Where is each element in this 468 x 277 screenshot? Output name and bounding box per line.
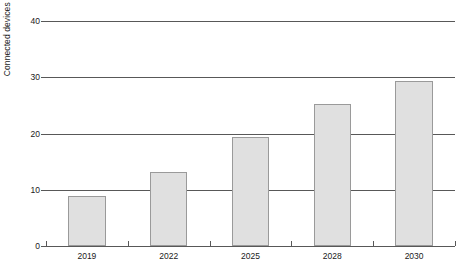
bar bbox=[150, 172, 187, 246]
y-axis-tick-mark bbox=[41, 21, 46, 22]
gridline bbox=[46, 21, 455, 22]
gridline bbox=[46, 77, 455, 78]
bar bbox=[232, 137, 269, 246]
y-axis-tick-mark bbox=[41, 77, 46, 78]
x-axis-line bbox=[46, 246, 455, 247]
x-axis-tick-label: 2022 bbox=[128, 250, 210, 262]
x-axis-tick-mark bbox=[46, 241, 47, 246]
bar bbox=[314, 104, 351, 246]
x-axis-tick-mark bbox=[291, 241, 292, 246]
x-axis-tick-labels: 20192022202520282030 bbox=[46, 250, 455, 264]
bar bbox=[68, 196, 105, 246]
y-axis-tick-mark bbox=[41, 246, 46, 247]
x-axis-tick-mark bbox=[128, 241, 129, 246]
x-axis-tick-label: 2019 bbox=[46, 250, 128, 262]
bar-chart: Connected devices in billions 010203040 … bbox=[0, 0, 468, 277]
x-axis-tick-label: 2025 bbox=[210, 250, 292, 262]
y-axis-tick-label: 10 bbox=[10, 186, 40, 195]
x-axis-tick-label: 2030 bbox=[373, 250, 455, 262]
y-axis-tick-mark bbox=[41, 190, 46, 191]
x-axis-tick-mark bbox=[373, 241, 374, 246]
y-axis-tick-label: 0 bbox=[10, 242, 40, 251]
gridline bbox=[46, 134, 455, 135]
y-axis-tick-mark bbox=[41, 134, 46, 135]
y-axis-tick-label: 30 bbox=[10, 73, 40, 82]
x-axis-tick-mark bbox=[455, 241, 456, 246]
x-axis-tick-mark bbox=[210, 241, 211, 246]
x-axis-tick-label: 2028 bbox=[291, 250, 373, 262]
bar bbox=[395, 81, 432, 246]
y-axis-tick-label: 40 bbox=[10, 17, 40, 26]
y-axis-tick-label: 20 bbox=[10, 130, 40, 139]
plot-area bbox=[46, 21, 455, 246]
y-axis-tick-labels: 010203040 bbox=[8, 21, 40, 246]
